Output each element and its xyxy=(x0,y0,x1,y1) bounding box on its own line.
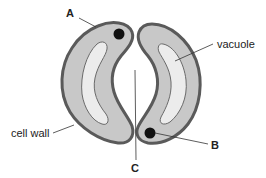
leader-c xyxy=(135,70,136,160)
label-cell-wall: cell wall xyxy=(11,127,50,139)
right-guard-cell xyxy=(137,24,200,143)
label-a: A xyxy=(66,7,74,19)
right-cell-wall xyxy=(137,24,200,143)
nucleus-b xyxy=(145,128,156,139)
guard-cell-diagram: A vacuole cell wall B C xyxy=(0,0,266,178)
left-cell-wall xyxy=(62,23,133,143)
label-vacuole: vacuole xyxy=(217,38,255,50)
left-guard-cell xyxy=(62,23,133,143)
leader-cell-wall xyxy=(53,125,74,133)
label-c: C xyxy=(131,162,139,174)
label-b: B xyxy=(211,139,219,151)
leader-a xyxy=(79,18,96,27)
nucleus-a xyxy=(114,29,125,40)
